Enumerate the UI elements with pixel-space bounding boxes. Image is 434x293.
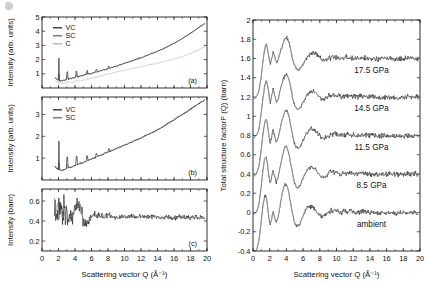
y-tick-label: 0 (246, 208, 250, 217)
panel-right-ylabel: Total structure factorF (Q) (barn) (219, 79, 228, 191)
x-tick-label: 16 (382, 254, 390, 263)
x-tick-label: 8 (318, 254, 322, 263)
y-tick-label: 1.2 (240, 93, 250, 102)
y-tick-label: 0.8 (240, 131, 250, 140)
curve-smooth-ambient (254, 184, 417, 253)
y-tick-label: 1.8 (240, 35, 250, 44)
y-tick-label: 3 (35, 110, 39, 119)
curve-SC (55, 24, 204, 81)
x-tick-label: 12 (137, 254, 145, 263)
x-tick-label: 4 (284, 254, 288, 263)
legend-label-SC: SC (66, 113, 76, 122)
x-tick-label: 20 (416, 254, 424, 263)
x-tick-label: 4 (73, 254, 77, 263)
x-tick-label: 18 (186, 254, 194, 263)
y-tick-label: 1.6 (240, 54, 250, 63)
curve-C (55, 47, 204, 84)
left-xlabel: Scattering vector Q (Å⁻¹) (82, 270, 168, 279)
panel-a-ylabel: Intensity (arb. units) (6, 18, 15, 87)
y-tick-label: 2 (35, 132, 39, 141)
y-tick-label: 3 (35, 41, 39, 50)
curve-smooth-11-5-GPa (254, 110, 417, 176)
panel-a: 12345VCSCC(a)Intensity (arb. units) (6, 13, 207, 88)
panel-b-curves (55, 99, 205, 170)
x-tick-label: 8 (106, 254, 110, 263)
panel-right-curves (254, 36, 418, 253)
panel-a-label: (a) (188, 76, 197, 85)
annotation-8-5-GPa: 8.5 GPa (357, 181, 387, 190)
curve-8-5-GPa (254, 146, 418, 214)
y-tick-label: 0.4 (29, 217, 39, 226)
y-tick-label: 0.2 (240, 189, 250, 198)
right-xlabel: Scattering vector Q (Å⁻¹) (294, 270, 380, 279)
panel-b-label: (b) (188, 168, 197, 177)
curve-SC (55, 100, 204, 171)
curve-FQ-noise (54, 195, 205, 227)
y-tick-label: 1 (246, 112, 250, 121)
x-tick-label: 12 (349, 254, 357, 263)
panel-right: 02468101214161820-0.4-0.200.20.40.60.811… (219, 16, 424, 279)
curve-ambient (254, 183, 418, 253)
annotation-ambient: ambient (357, 220, 387, 229)
x-tick-label: 6 (89, 254, 93, 263)
y-tick-label: 1.4 (240, 73, 250, 82)
panel-c-curves (54, 195, 205, 227)
annotation-17-5-GPa: 17.5 GPa (354, 66, 389, 75)
y-tick-label: 0.4 (240, 170, 250, 179)
y-tick-label: 0.6 (240, 150, 250, 159)
x-tick-label: 10 (120, 254, 128, 263)
curve-FQ-smooth (54, 198, 204, 223)
x-tick-label: 14 (366, 254, 374, 263)
y-tick-label: -0.4 (238, 247, 251, 256)
corner-glyph (5, 2, 13, 10)
y-tick-label: 1 (35, 154, 39, 163)
x-tick-label: 0 (251, 254, 255, 263)
curve-17-5-GPa (254, 36, 418, 99)
panel-c-frame (42, 189, 207, 251)
panel-b: 123VCSC(b)Intensity (arb. units) (6, 97, 207, 180)
panel-c: 024681012141618200.20.40.6(c)Intensity (… (6, 189, 211, 279)
panel-b-ylabel: Intensity (arb. units) (6, 104, 15, 173)
panel-c-ylabel: Intensity (barn) (6, 194, 15, 246)
panel-a-curves (55, 23, 205, 83)
panel-c-label: (c) (189, 239, 197, 248)
y-tick-label: 0.6 (29, 197, 39, 206)
curve-11-5-GPa (254, 110, 418, 176)
annotation-14-5-GPa: 14.5 GPa (354, 104, 389, 113)
y-tick-label: 2 (35, 55, 39, 64)
curve-smooth-14-5-GPa (254, 74, 417, 137)
x-tick-label: 20 (203, 254, 211, 263)
x-tick-label: 16 (170, 254, 178, 263)
y-tick-label: 0.2 (29, 237, 39, 246)
figure-canvas: 12345VCSCC(a)Intensity (arb. units)123VC… (0, 0, 434, 293)
x-tick-label: 18 (399, 254, 407, 263)
y-tick-label: 5 (35, 13, 39, 22)
y-tick-label: 1 (35, 69, 39, 78)
x-tick-label: 0 (40, 254, 44, 263)
annotation-11-5-GPa: 11.5 GPa (355, 143, 389, 152)
curve-smooth-17-5-GPa (254, 37, 417, 99)
y-tick-label: 4 (35, 27, 39, 36)
curve-smooth-8-5-GPa (254, 145, 417, 214)
x-tick-label: 10 (332, 254, 340, 263)
x-tick-label: 14 (153, 254, 161, 263)
x-tick-label: 6 (301, 254, 305, 263)
y-tick-label: 2 (246, 16, 250, 25)
y-tick-label: -0.2 (238, 227, 251, 236)
curve-VC (55, 99, 205, 170)
curve-VC (55, 23, 205, 81)
figure-root: 12345VCSCC(a)Intensity (arb. units)123VC… (0, 0, 434, 293)
x-tick-label: 2 (56, 254, 60, 263)
legend-label-C: C (66, 39, 71, 48)
x-tick-label: 2 (268, 254, 272, 263)
curve-14-5-GPa (254, 73, 418, 138)
corner-mark-icon (5, 2, 13, 10)
